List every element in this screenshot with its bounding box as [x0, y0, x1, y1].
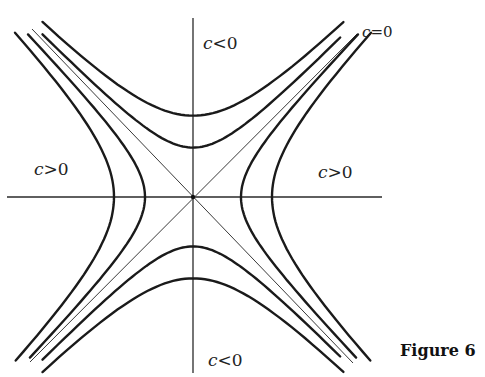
label-relation: >	[328, 162, 342, 182]
label-relation: <	[218, 350, 232, 370]
figure-caption: Figure 6	[400, 341, 476, 360]
label-value: 0	[342, 162, 353, 182]
label-value: 0	[383, 23, 393, 41]
label-value: 0	[232, 350, 243, 370]
label-c-positive-left: c>0	[34, 159, 69, 179]
label-c-positive-right: c>0	[318, 162, 353, 182]
hyperbola-c-positive-right-1	[241, 34, 358, 357]
label-c-negative-bottom: c<0	[208, 350, 243, 370]
label-value: 0	[227, 33, 238, 53]
label-variable: c	[318, 162, 328, 182]
label-relation: <	[213, 33, 227, 53]
label-relation: =	[370, 23, 383, 41]
origin-point	[191, 195, 195, 199]
label-variable: c	[34, 159, 44, 179]
label-variable: c	[203, 33, 213, 53]
label-c-negative-top: c<0	[203, 33, 238, 53]
label-value: 0	[58, 159, 69, 179]
label-relation: >	[44, 159, 58, 179]
hyperbola-family-plot	[0, 0, 485, 377]
label-c-zero-asymptote: c=0	[362, 23, 393, 41]
label-variable: c	[208, 350, 218, 370]
hyperbola-c-positive-left-1	[28, 34, 145, 357]
